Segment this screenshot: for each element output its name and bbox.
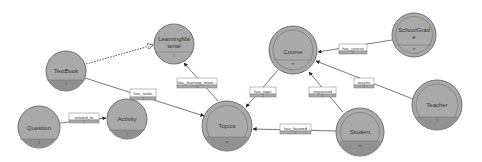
node-label: Student [350,129,371,135]
edge-label-teachs[interactable]: teachs 1 [354,78,374,89]
node-student[interactable]: Student m [336,108,384,157]
edge-label-text: has_tasks [134,91,153,96]
node-question[interactable]: Question 1 [17,106,61,151]
node-label: Question [27,125,51,131]
node-label: Activity [117,116,136,122]
node-label-line1: LearningMa [158,36,190,42]
node-label: Course [283,49,303,55]
node-schoolgrade[interactable]: SchoolGrad e m [392,13,436,57]
node-topics[interactable]: Topics m [201,101,253,153]
node-label: Teacher [426,102,447,108]
node-textbook[interactable]: TextBook 1 [44,51,88,94]
edge-label-has-tasks[interactable]: has_tasks 1 [130,89,156,101]
node-label-line2: terial [167,43,180,49]
edge-label-has-topic[interactable]: has_topic 1 [250,87,276,98]
node-teacher[interactable]: Teacher 1 [412,80,462,131]
nodes: TextBook 1 LearningMa terial 1 Course m … [17,13,462,157]
edge-label-has-course[interactable]: has_course 1 [339,44,367,55]
edge-label-related-to[interactable]: related_to 1 [69,113,99,124]
edge-textbook-learningmaterial[interactable] [86,45,153,64]
node-activity[interactable]: Activity 1 [106,99,148,142]
edge-label-registered[interactable]: registered 1 [309,87,336,98]
edge-label-has-learning-material[interactable]: has_learning_mate... 1 [177,78,217,89]
diagram-canvas: has_tasks 1 related_to 1 has_learning_ma… [0,0,482,162]
node-learningmaterial[interactable]: LearningMa terial 1 [154,24,194,64]
node-label: Topics [218,123,235,129]
node-course[interactable]: Course m [269,26,317,74]
node-label: TextBook [54,68,80,74]
edge-label-has-learned[interactable]: has_learned 1 [280,124,311,135]
node-label-line1: SchoolGrad [398,27,430,33]
